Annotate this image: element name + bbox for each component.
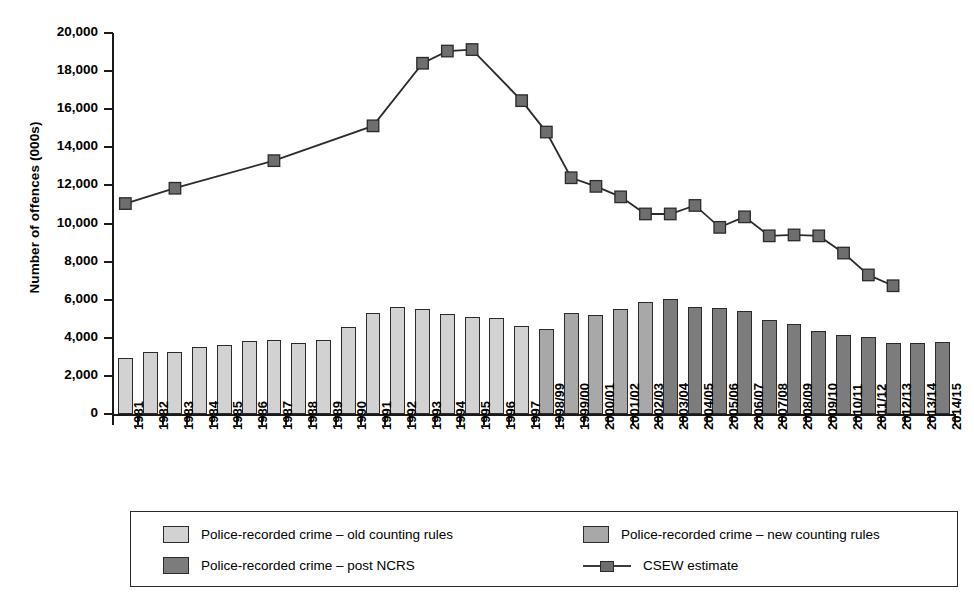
x-tick-label: 1991 xyxy=(379,401,394,430)
x-tick-label: 1985 xyxy=(230,401,245,430)
x-tick-label: 2014/15 xyxy=(949,383,964,430)
x-tick-label: 1996 xyxy=(503,401,518,430)
legend-swatch-icon xyxy=(163,526,189,543)
x-tick-label: 2007/08 xyxy=(775,383,790,430)
y-tick-label: 18,000 xyxy=(0,62,98,77)
y-tick-label: 20,000 xyxy=(0,24,98,39)
x-tick-label: 1989 xyxy=(330,401,345,430)
x-tick-label: 1982 xyxy=(156,401,171,430)
csew-marker xyxy=(714,222,726,234)
csew-marker xyxy=(541,126,553,138)
x-tick-label: 2012/13 xyxy=(899,383,914,430)
csew-marker xyxy=(887,280,899,292)
x-tick-label: 1983 xyxy=(181,401,196,430)
y-tick-label: 2,000 xyxy=(0,367,98,382)
x-tick-label: 2010/11 xyxy=(850,384,865,430)
legend-item[interactable]: Police-recorded crime – new counting rul… xyxy=(583,526,880,543)
x-tick-label: 2006/07 xyxy=(751,383,766,430)
x-tick-label: 1984 xyxy=(206,401,221,430)
y-tick-label: 12,000 xyxy=(0,176,98,191)
csew-marker xyxy=(739,211,751,223)
x-tick-label: 1987 xyxy=(280,401,295,430)
x-tick-label: 1993 xyxy=(429,401,444,430)
chart-legend: Police-recorded crime – old counting rul… xyxy=(130,511,958,587)
bar xyxy=(366,313,381,414)
y-tick-label: 14,000 xyxy=(0,138,98,153)
legend-swatch-icon xyxy=(583,526,609,543)
y-tick-label: 8,000 xyxy=(0,253,98,268)
csew-marker xyxy=(788,229,800,241)
x-tick-label: 2003/04 xyxy=(676,383,691,430)
y-tick-label: 4,000 xyxy=(0,329,98,344)
x-tick-label: 1998/99 xyxy=(552,383,567,430)
legend-label: CSEW estimate xyxy=(643,558,738,573)
y-tick-label: 6,000 xyxy=(0,291,98,306)
x-tick-label: 2013/14 xyxy=(924,383,939,430)
csew-marker xyxy=(367,120,379,132)
csew-line xyxy=(125,50,893,286)
x-tick xyxy=(112,416,114,425)
legend-label: Police-recorded crime – post NCRS xyxy=(201,558,415,573)
x-tick-label: 1981 xyxy=(131,401,146,430)
y-tick-label: 16,000 xyxy=(0,100,98,115)
bar xyxy=(465,317,480,414)
bar xyxy=(390,307,405,414)
x-tick-label: 1995 xyxy=(478,401,493,430)
x-tick-label: 1992 xyxy=(404,401,419,430)
x-tick-label: 1990 xyxy=(354,401,369,430)
legend-item[interactable]: Police-recorded crime – post NCRS xyxy=(163,557,415,574)
x-tick-label: 2000/01 xyxy=(602,383,617,430)
legend-item[interactable]: Police-recorded crime – old counting rul… xyxy=(163,526,453,543)
csew-marker xyxy=(813,230,825,242)
y-tick-label: 10,000 xyxy=(0,215,98,230)
csew-marker xyxy=(640,208,652,220)
legend-line-icon xyxy=(583,557,631,574)
csew-marker xyxy=(838,247,850,258)
x-tick-label: 2002/03 xyxy=(651,383,666,430)
x-tick-label: 2004/05 xyxy=(701,383,716,430)
csew-marker xyxy=(442,45,454,57)
csew-marker xyxy=(169,183,181,195)
legend-label: Police-recorded crime – new counting rul… xyxy=(621,527,880,542)
legend-item[interactable]: CSEW estimate xyxy=(583,557,738,574)
y-tick-label: 0 xyxy=(0,405,98,420)
csew-marker xyxy=(565,172,577,184)
x-tick-label: 2001/02 xyxy=(627,383,642,430)
bar xyxy=(415,309,430,414)
legend-swatch-icon xyxy=(163,557,189,574)
csew-marker xyxy=(863,269,875,281)
csew-marker xyxy=(665,208,677,220)
x-tick-label: 1986 xyxy=(255,401,270,430)
x-tick-label: 1994 xyxy=(453,401,468,430)
csew-marker xyxy=(268,155,280,167)
csew-marker xyxy=(590,181,602,193)
x-tick-label: 2009/10 xyxy=(825,383,840,430)
csew-marker xyxy=(417,58,429,70)
x-tick-label: 2011/12 xyxy=(874,384,889,430)
csew-marker xyxy=(120,198,132,210)
csew-marker xyxy=(466,44,478,56)
y-axis-line xyxy=(112,33,114,415)
chart-page: Number of offences (000s) 02,0004,0006,0… xyxy=(0,0,974,613)
x-tick-label: 2008/09 xyxy=(800,383,815,430)
x-tick-label: 1999/00 xyxy=(577,383,592,430)
bar xyxy=(489,318,504,414)
x-tick-label: 1997 xyxy=(528,401,543,430)
x-tick-label: 2005/06 xyxy=(726,383,741,430)
bar xyxy=(440,314,455,414)
x-tick-label: 1988 xyxy=(305,401,320,430)
plot-area: Number of offences (000s) 02,0004,0006,0… xyxy=(0,0,974,500)
csew-marker xyxy=(689,200,701,212)
legend-label: Police-recorded crime – old counting rul… xyxy=(201,527,453,542)
csew-marker xyxy=(516,95,528,107)
csew-marker xyxy=(615,191,627,203)
csew-marker xyxy=(764,230,776,242)
